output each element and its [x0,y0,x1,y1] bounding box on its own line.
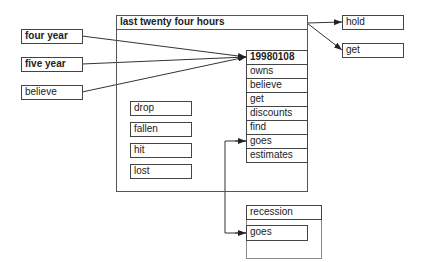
main-frame-title[interactable]: last twenty four hours [116,15,308,30]
recession-frame-title[interactable]: recession [246,205,322,220]
node-believe[interactable]: believe [21,85,83,100]
column-cell-estimates[interactable]: estimates [246,148,308,163]
node-get[interactable]: get [342,43,404,58]
column-cell-owns[interactable]: owns [246,64,308,79]
node-hold[interactable]: hold [342,15,404,30]
node-drop[interactable]: drop [130,101,192,116]
column-cell-believe[interactable]: believe [246,78,308,93]
column-cell-19980108[interactable]: 19980108 [246,50,308,65]
column-cell-find[interactable]: find [246,120,308,135]
node-hit[interactable]: hit [130,143,192,158]
column-cell-get[interactable]: get [246,92,308,107]
node-recession-goes[interactable]: goes [246,225,308,241]
node-lost[interactable]: lost [130,164,192,179]
node-four-year[interactable]: four year [21,29,83,44]
column-cell-discounts[interactable]: discounts [246,106,308,121]
column-cell-goes[interactable]: goes [246,134,308,149]
edge-hold [307,22,342,23]
node-five-year[interactable]: five year [21,57,83,72]
node-fallen[interactable]: fallen [130,122,192,137]
edge-get [307,23,342,50]
